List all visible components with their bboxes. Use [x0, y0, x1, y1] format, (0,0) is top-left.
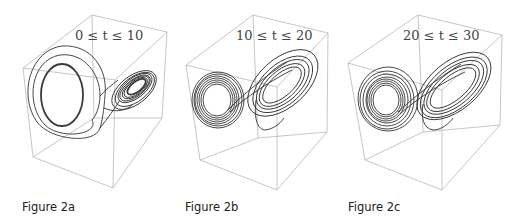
- trajectory: [358, 39, 503, 132]
- figure-caption: Figure 2c: [348, 200, 400, 214]
- panel-figure-2b: 10 ≤ t ≤ 20 Figure 2b: [172, 0, 344, 222]
- trajectory: [192, 37, 330, 130]
- figure-caption: Figure 2a: [22, 200, 75, 214]
- figure-caption: Figure 2b: [185, 200, 238, 214]
- panel-figure-2a: 0 ≤ t ≤ 10 Figure 2a: [0, 0, 172, 222]
- time-range-label: 10 ≤ t ≤ 20: [236, 28, 313, 43]
- trajectory: [28, 46, 163, 139]
- time-range-label: 20 ≤ t ≤ 30: [403, 28, 480, 43]
- panel-figure-2c: 20 ≤ t ≤ 30 Figure 2c: [343, 0, 515, 222]
- time-range-label: 0 ≤ t ≤ 10: [75, 28, 143, 43]
